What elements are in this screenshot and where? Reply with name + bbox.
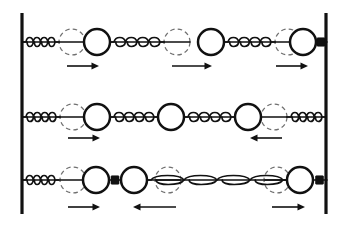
rigid-link-mass-3-to-wall — [316, 176, 324, 184]
displacement-arrow-2-head — [205, 63, 213, 70]
normal-modes-diagram — [0, 0, 343, 226]
row-mode-3 — [22, 167, 327, 210]
mode-3-mass-3 — [287, 167, 313, 193]
displacement-arrow-2-head — [133, 204, 141, 211]
displacement-arrow-3-head — [298, 204, 306, 211]
mode-2-mass-2 — [158, 104, 184, 130]
mode-3-mass-1 — [83, 167, 109, 193]
mode-2-mass-1 — [84, 104, 110, 130]
rigid-link-mass-1-to-mass-2 — [111, 176, 119, 184]
diagram-canvas — [0, 0, 343, 226]
mode-2-mass-3 — [235, 104, 261, 130]
row-mode-2 — [22, 104, 326, 141]
displacement-arrow-3-head — [250, 135, 258, 142]
mode-3-mass-2 — [121, 167, 147, 193]
displacement-arrow-1-head — [93, 204, 101, 211]
displacement-arrow-1-head — [93, 135, 101, 142]
rigid-link-mass-3-to-wall — [317, 38, 325, 46]
displacement-arrow-3-head — [301, 63, 309, 70]
mode-1-mass-1 — [84, 29, 110, 55]
row-mode-1 — [22, 29, 327, 69]
mode-1-mass-3 — [290, 29, 316, 55]
mode-1-mass-2 — [198, 29, 224, 55]
displacement-arrow-1-head — [92, 63, 100, 70]
